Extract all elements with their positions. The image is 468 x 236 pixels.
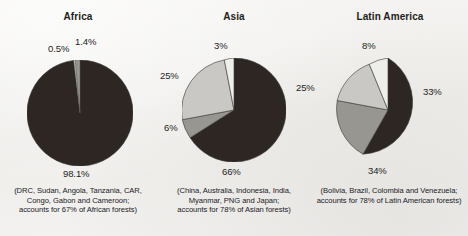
caption-line-1: (Bolivia, Brazil, Colombia and Venezuela… (308, 186, 468, 196)
pie-label-africa-1-4: 1.4% (75, 36, 96, 47)
chart-title-latin-america: Latin America (312, 11, 468, 22)
caption-line-3: accounts for 78% of Asian forests) (158, 205, 310, 215)
pie-label-asia-3: 3% (214, 40, 228, 51)
pie-label-asia-6: 6% (164, 122, 178, 133)
pie-label-asia-66: 66% (222, 166, 241, 177)
chart-caption-africa: (DRC, Sudan, Angola, Tanzania, CAR, Cong… (2, 186, 154, 215)
pie-chart-asia (182, 58, 286, 162)
chart-caption-latin-america: (Bolivia, Brazil, Colombia and Venezuela… (308, 186, 468, 205)
chart-panel-latin-america: Latin America 8% 25% 33% 34% (Bolivia, B… (312, 0, 468, 236)
pie-label-africa-98-1: 98.1% (63, 168, 89, 179)
pie-svg-africa (27, 60, 133, 166)
pie-label-asia-25: 25% (160, 70, 179, 81)
caption-line-3: accounts for 67% of African forests) (2, 205, 154, 215)
chart-caption-asia: (China, Australia, Indonesia, India, Mya… (158, 186, 310, 215)
pie-chart-africa (27, 60, 133, 166)
pie-svg-latin-america (336, 58, 440, 162)
caption-line-2: Congo, Gabon and Cameroon; (2, 196, 154, 206)
caption-line-2: Myanmar, PNG and Japan; (158, 196, 310, 206)
pie-label-latin-25: 25% (296, 82, 315, 93)
pie-label-latin-33: 33% (423, 86, 442, 97)
chart-panel-africa: Africa 0.5% 1.4% 98.1% (DRC, Sudan, Ango… (0, 0, 156, 236)
pie-label-latin-34: 34% (368, 165, 387, 176)
chart-panel-asia: Asia 3% 25% 6% 66% (China, Australia, In… (156, 0, 312, 236)
pie-svg-asia (182, 58, 286, 162)
pie-label-latin-8: 8% (362, 40, 376, 51)
chart-title-africa: Africa (0, 11, 156, 22)
caption-line-2: accounts for 78% of Latin American fores… (308, 196, 468, 206)
caption-line-1: (DRC, Sudan, Angola, Tanzania, CAR, (2, 186, 154, 196)
pie-label-africa-0-5: 0.5% (48, 43, 69, 54)
chart-title-asia: Asia (156, 11, 312, 22)
caption-line-1: (China, Australia, Indonesia, India, (158, 186, 310, 196)
pie-chart-latin-america (336, 58, 440, 162)
